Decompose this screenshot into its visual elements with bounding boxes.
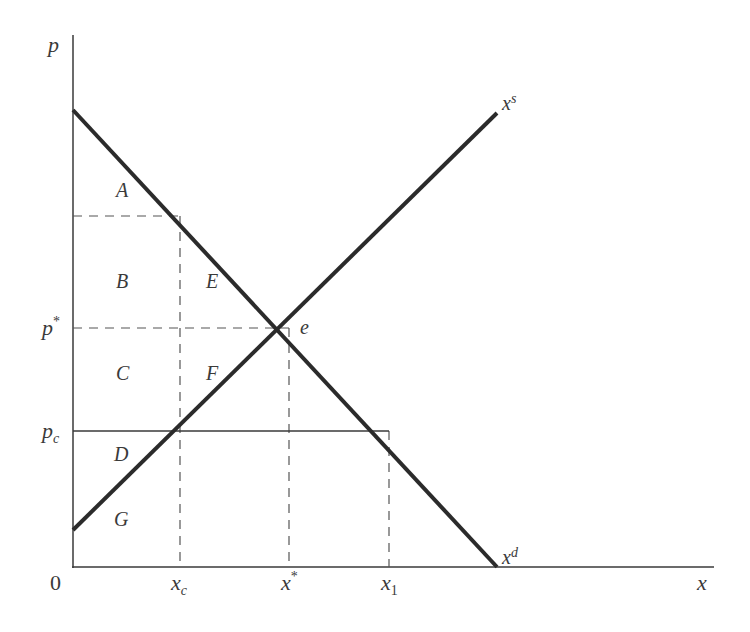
region-G: G bbox=[114, 508, 129, 530]
region-F: F bbox=[205, 362, 219, 384]
demand-curve-label: xd bbox=[501, 545, 519, 568]
supply-curve-label: xs bbox=[501, 91, 517, 114]
x-axis-label: x bbox=[696, 570, 707, 595]
equilibrium-label: e bbox=[300, 316, 309, 338]
x-tick-x-c: xc bbox=[170, 570, 188, 598]
demand-curve bbox=[73, 110, 497, 567]
supply-curve bbox=[73, 113, 497, 530]
region-B: B bbox=[116, 270, 128, 292]
region-C: C bbox=[116, 362, 130, 384]
region-D: D bbox=[113, 443, 129, 465]
x-tick-x-star: x* bbox=[280, 569, 298, 595]
supply-demand-diagram: p x 0 p* pc xc x* x1 xs xd e A B C D E F… bbox=[0, 0, 750, 632]
y-tick-p-star: p* bbox=[40, 314, 60, 340]
origin-label: 0 bbox=[50, 570, 61, 595]
region-E: E bbox=[205, 270, 218, 292]
y-tick-p-c: pc bbox=[40, 418, 60, 446]
region-A: A bbox=[114, 179, 129, 201]
y-axis-label: p bbox=[46, 32, 59, 57]
x-tick-x-1: x1 bbox=[380, 570, 398, 598]
